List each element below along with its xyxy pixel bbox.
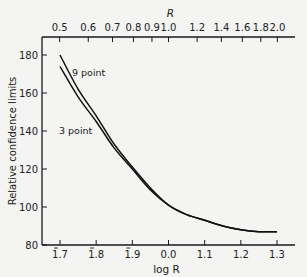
y-axis-title: Relative confidence limits [7,77,18,206]
y-tick-label: 120 [19,164,38,175]
x2-axis-title: R [167,7,174,19]
x2-tick-label: 1.4 [213,22,229,33]
x-tick-label: 1.8 [88,249,104,260]
y-tick-label: 180 [19,50,38,61]
x-tick-label: 1.3 [269,249,285,260]
x2-tick-label: 1.8 [253,22,269,33]
series-line-3-point [60,66,277,231]
x2-tick-label: 1.2 [189,22,205,33]
x-tick-label: 0.0 [161,249,177,260]
chart-canvas: 801001201401601801.71.81.90.01.11.21.30.… [0,0,307,277]
x2-tick-label: 0.9 [144,22,160,33]
y-tick-label: 100 [19,202,38,213]
curves [60,55,277,232]
x2-tick-label: 1.6 [234,22,250,33]
y-tick-label: 140 [19,126,38,137]
x-tick-label: 1.9 [124,249,140,260]
x-tick-label: 1.1 [197,249,213,260]
x2-tick-label: 0.5 [52,22,68,33]
x2-tick-label: 1.0 [161,22,177,33]
series-label-9-point: 9 point [72,67,106,78]
x2-tick-label: 0.7 [105,22,121,33]
y-tick-label: 80 [25,240,38,251]
x-tick-label: 1.7 [52,249,68,260]
x2-tick-label: 0.8 [125,22,141,33]
labels: 801001201401601801.71.81.90.01.11.21.30.… [7,7,285,275]
x2-tick-label: 2.0 [269,22,285,33]
x-axis-title: log R [153,263,180,275]
x2-tick-label: 0.6 [80,22,96,33]
series-label-3-point: 3 point [59,125,93,136]
chart: 801001201401601801.71.81.90.01.11.21.30.… [0,0,307,277]
y-tick-label: 160 [19,88,38,99]
x-tick-label: 1.2 [233,249,249,260]
